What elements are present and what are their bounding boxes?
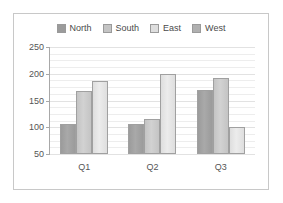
y-tick-label: 250: [29, 42, 44, 52]
y-tick-label: 150: [29, 96, 44, 106]
bar-east-q2[interactable]: [160, 74, 176, 154]
legend-swatch-north: [57, 24, 66, 33]
legend-swatch-south: [103, 24, 112, 33]
chart-container: NorthSouthEastWest 50100150200250 Q1Q2Q3: [13, 13, 269, 190]
bar-north-q1[interactable]: [60, 124, 76, 154]
bar-north-q2[interactable]: [128, 124, 144, 154]
y-tick-label: 50: [34, 149, 44, 159]
bar-south-q2[interactable]: [144, 119, 160, 154]
x-tick-label: Q2: [146, 162, 158, 172]
gridline-major: [50, 154, 255, 155]
legend-label: West: [205, 24, 225, 33]
legend-label: East: [163, 24, 181, 33]
x-tick-label: Q1: [78, 162, 90, 172]
legend-swatch-west: [192, 24, 201, 33]
bar-south-q3[interactable]: [213, 78, 229, 155]
legend-item-east[interactable]: East: [150, 24, 181, 33]
y-tick-label: 200: [29, 69, 44, 79]
bar-group-q2: [118, 47, 186, 154]
bars-layer: [50, 47, 255, 154]
bar-group-q3: [187, 47, 255, 154]
legend-item-west[interactable]: West: [192, 24, 225, 33]
y-tick-mark: [46, 154, 50, 155]
chart-legend: NorthSouthEastWest: [14, 24, 268, 33]
legend-item-south[interactable]: South: [103, 24, 140, 33]
legend-swatch-east: [150, 24, 159, 33]
legend-item-north[interactable]: North: [57, 24, 92, 33]
bar-south-q1[interactable]: [76, 91, 92, 154]
bar-east-q3[interactable]: [229, 127, 245, 154]
bar-north-q3[interactable]: [197, 90, 213, 154]
bar-group-q1: [50, 47, 118, 154]
y-tick-label: 100: [29, 122, 44, 132]
legend-label: North: [70, 24, 92, 33]
legend-label: South: [116, 24, 140, 33]
plot-area: 50100150200250 Q1Q2Q3: [49, 47, 255, 155]
bar-east-q1[interactable]: [92, 81, 108, 154]
x-tick-label: Q3: [215, 162, 227, 172]
